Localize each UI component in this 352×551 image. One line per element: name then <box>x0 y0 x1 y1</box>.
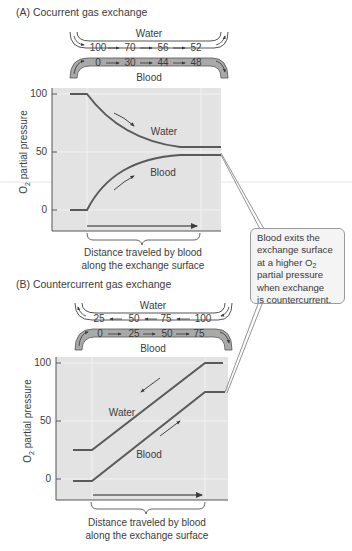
callout-line: at a higher O2 <box>257 257 339 269</box>
panel-a-ytick: 0 <box>41 204 47 215</box>
panel-a-blood-curve-label: Blood <box>150 167 176 178</box>
panel-a-title: (A) Cocurrent gas exchange <box>16 6 147 18</box>
panel-a-water-label: Water <box>136 28 163 39</box>
panel-a-brace <box>87 233 200 245</box>
panel-a-blood-value: 0 <box>95 57 101 68</box>
panel-b-water-value: 100 <box>195 313 212 324</box>
panel-b-water-label: Water <box>140 300 167 311</box>
callout-box: Blood exits the exchange surface at a hi… <box>250 228 345 304</box>
panel-a-ytick: 50 <box>36 146 48 157</box>
panel-a-blood-label: Blood <box>136 72 162 83</box>
panel-a-x-caption: along the exchange surface <box>82 260 205 271</box>
panel-b-blood-value: 0 <box>97 328 103 339</box>
panel-b-water-value: 25 <box>93 313 105 324</box>
panel-a-water-value: 56 <box>157 42 169 53</box>
callout-line: partial pressure <box>257 269 339 281</box>
panel-a-blood-value: 44 <box>157 57 169 68</box>
panel-b-blood-label: Blood <box>140 343 166 354</box>
panel-b-water-value: 50 <box>128 313 140 324</box>
panel-b-ytick: 100 <box>34 357 51 368</box>
callout-line: is countercurrent. <box>257 294 339 306</box>
panel-a-blood-value: 48 <box>190 57 202 68</box>
panel-a-water-curve-label: Water <box>151 126 178 137</box>
panel-a-ytick: 100 <box>30 88 47 99</box>
panel-a-y-axis-label: O2 partial pressure <box>18 110 31 194</box>
panel-a-blood-value: 30 <box>124 57 136 68</box>
panel-b-brace <box>91 502 205 514</box>
panel-b-ytick: 0 <box>45 473 51 484</box>
callout-line: when exchange <box>257 282 339 294</box>
panel-b-blood-value: 50 <box>161 328 173 339</box>
panel-a-x-caption: Distance traveled by blood <box>84 247 202 258</box>
panel-b-blood-curve-label: Blood <box>136 449 162 460</box>
panel-b-water-value: 75 <box>160 313 172 324</box>
panel-b-ytick: 50 <box>40 415 52 426</box>
panel-b-x-caption: Distance traveled by blood <box>88 517 206 528</box>
panel-b-x-caption: along the exchange surface <box>86 530 209 541</box>
panel-a-water-value: 70 <box>124 42 136 53</box>
callout-line: Blood exits the <box>257 232 339 244</box>
panel-b-blood-value: 75 <box>193 328 205 339</box>
panel-b-blood-value: 25 <box>128 328 140 339</box>
panel-a-chart <box>52 88 221 231</box>
panel-b-water-curve-label: Water <box>109 407 136 418</box>
panel-a-water-value: 52 <box>190 42 202 53</box>
panel-b-chart <box>56 357 228 500</box>
panel-a-water-value: 100 <box>90 42 107 53</box>
panel-b-title: (B) Countercurrent gas exchange <box>16 278 171 290</box>
panel-b-y-axis-label: O2 partial pressure <box>22 379 35 463</box>
callout-line: exchange surface <box>257 244 339 256</box>
